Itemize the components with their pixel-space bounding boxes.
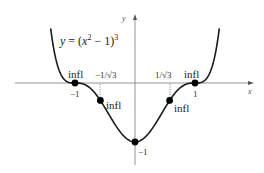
infl-label-neg-inv-sqrt3: infl (106, 100, 121, 111)
infl-label-neg1: infl (68, 69, 83, 80)
equation-label: y = (x2 − 1)3 (60, 34, 118, 47)
function-plot (0, 0, 264, 173)
tick-label-pos1: 1 (193, 90, 198, 99)
y-axis-label: y (122, 15, 126, 23)
min-value-label: −1 (138, 148, 148, 157)
infl-label-pos1: infl (184, 69, 199, 80)
minimum-point-marker (132, 139, 139, 146)
x-axis-arrow-icon (248, 81, 254, 85)
infl-label-pos-inv-sqrt3: infl (174, 103, 189, 114)
tick-label-neg-inv-sqrt3: −1/√3 (95, 71, 117, 80)
inflection-point-marker (72, 80, 79, 87)
x-axis-label: x (248, 88, 252, 96)
x-axis (15, 81, 254, 85)
tick-label-neg1: −1 (70, 90, 80, 99)
inflection-point-marker (166, 97, 173, 104)
inflection-point-marker (97, 97, 104, 104)
tick-label-pos-inv-sqrt3: 1/√3 (155, 71, 171, 80)
inflection-point-marker (192, 80, 199, 87)
y-axis-arrow-icon (133, 14, 137, 20)
